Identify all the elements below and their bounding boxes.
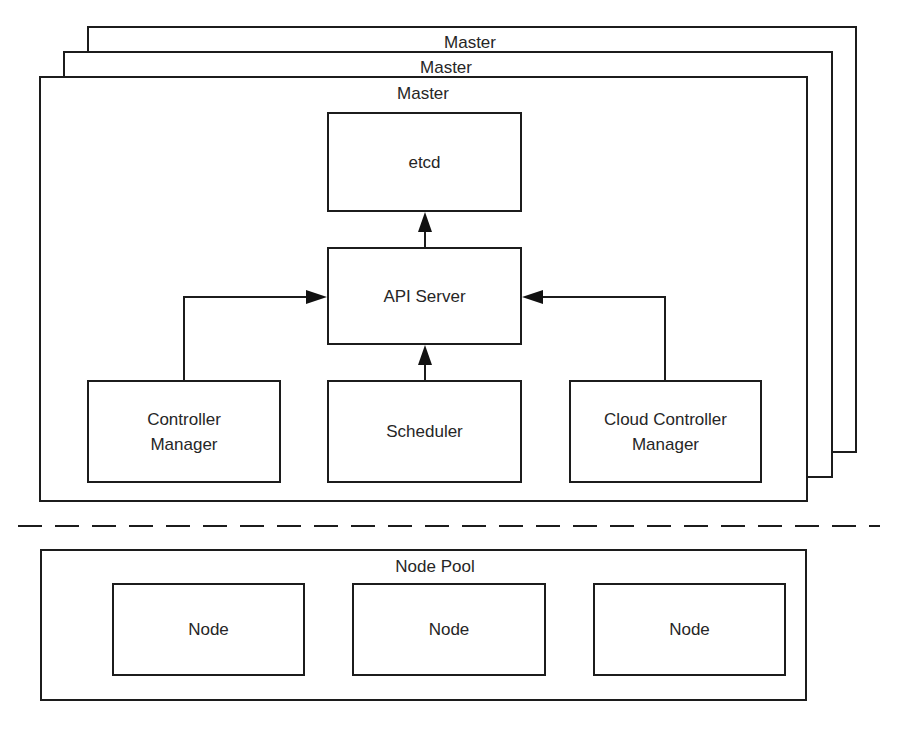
node-label-3: Node bbox=[669, 617, 710, 642]
node-label-2: Node bbox=[429, 617, 470, 642]
node-box-3: Node bbox=[593, 583, 786, 676]
node-box-2: Node bbox=[352, 583, 546, 676]
node-box-1: Node bbox=[112, 583, 305, 676]
arrow-api-to-etcd bbox=[418, 212, 432, 247]
arrow-cloud-controller-manager-to-api bbox=[522, 290, 665, 380]
node-label-1: Node bbox=[188, 617, 229, 642]
arrow-controller-manager-to-api bbox=[184, 290, 327, 380]
arrow-scheduler-to-api bbox=[418, 345, 432, 380]
node-pool-label: Node Pool bbox=[380, 557, 490, 577]
